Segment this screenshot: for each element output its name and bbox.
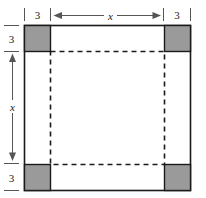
left-bottom-margin-label: 3 [9, 172, 15, 184]
top-left-margin-label: 3 [35, 9, 41, 21]
top-span-arrowhead-left [54, 12, 63, 19]
figure-canvas: 3 3 x 3 3 x [0, 0, 206, 198]
left-span-label: x [9, 101, 15, 113]
left-span-arrowhead-top [9, 54, 16, 63]
geometry-figure: 3 3 x 3 3 x [0, 0, 206, 198]
corner-square-top-right [165, 26, 191, 52]
left-top-margin-label: 3 [9, 33, 15, 45]
corner-square-top-left [25, 26, 51, 52]
corner-square-bottom-right [165, 165, 191, 191]
top-right-margin-label: 3 [174, 9, 180, 21]
corner-square-bottom-left [25, 165, 51, 191]
left-span-arrowhead-bottom [9, 153, 16, 162]
top-span-label: x [107, 10, 113, 22]
top-span-arrowhead-right [153, 12, 162, 19]
